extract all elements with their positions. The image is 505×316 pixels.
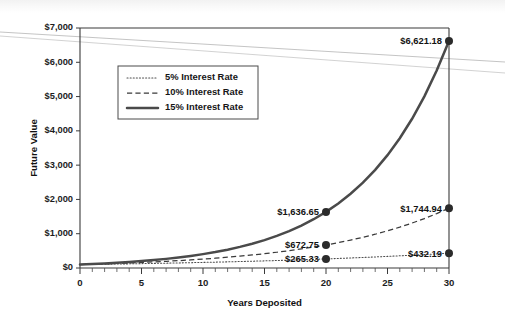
x-axis-tick-label: 10 bbox=[198, 277, 209, 288]
x-axis-tick-label: 20 bbox=[321, 277, 332, 288]
legend-label: 15% Interest Rate bbox=[165, 101, 243, 112]
future-value-line-chart: $0$1,000$2,000$3,000$4,000$5,000$6,000$7… bbox=[0, 0, 505, 316]
x-axis-tick-label: 15 bbox=[259, 277, 270, 288]
data-point-label: $1,636.65 bbox=[277, 206, 319, 217]
x-axis-tick-label: 0 bbox=[77, 277, 82, 288]
legend-label: 10% Interest Rate bbox=[165, 86, 243, 97]
data-point-marker bbox=[445, 204, 453, 212]
data-point-label: $6,621.18 bbox=[400, 35, 442, 46]
data-point-marker bbox=[322, 255, 330, 263]
y-axis-tick-label: $5,000 bbox=[45, 91, 73, 101]
legend-label: 5% Interest Rate bbox=[165, 71, 238, 82]
data-point-marker bbox=[445, 249, 453, 257]
y-axis-tick-label: $4,000 bbox=[45, 125, 73, 135]
data-point-label: $265.33 bbox=[285, 253, 319, 264]
y-axis-tick-label: $2,000 bbox=[45, 194, 73, 204]
y-axis-tick-label: $6,000 bbox=[45, 57, 73, 67]
data-point-label: $432.19 bbox=[408, 248, 442, 259]
data-point-label: $1,744.94 bbox=[400, 203, 442, 214]
y-axis-tick-label: $7,000 bbox=[45, 22, 73, 32]
y-axis-tick-label: $1,000 bbox=[45, 228, 73, 238]
y-axis-title: Future Value bbox=[28, 119, 39, 177]
y-axis-tick-label: $0 bbox=[63, 262, 73, 272]
data-point-marker bbox=[322, 241, 330, 249]
x-axis-tick-label: 30 bbox=[444, 277, 455, 288]
data-point-marker bbox=[322, 208, 330, 216]
data-point-marker bbox=[445, 37, 453, 45]
y-axis-tick-label: $3,000 bbox=[45, 160, 73, 170]
x-axis-title: Years Deposited bbox=[227, 297, 302, 308]
x-axis-tick-label: 25 bbox=[382, 277, 393, 288]
x-axis-tick-label: 5 bbox=[139, 277, 145, 288]
data-point-label: $672.75 bbox=[285, 239, 319, 250]
chart-container: $0$1,000$2,000$3,000$4,000$5,000$6,000$7… bbox=[0, 0, 505, 316]
